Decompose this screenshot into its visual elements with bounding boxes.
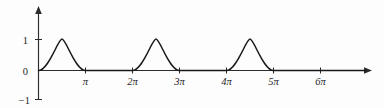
y-tick-label-1: 1 [23, 35, 28, 46]
data-series-rectified-sine [39, 39, 367, 71]
curve-arch-2 [133, 39, 180, 71]
x-tick-label-4pi: 4π [221, 76, 232, 87]
x-tick-label-5pi: 5π [268, 76, 279, 87]
x-tick-label-2pi: 2π [127, 76, 138, 87]
x-tick-label-6pi: 6π [315, 76, 326, 87]
chart-figure: π 2π 3π 4π 5π 6π 1 0 −1 [0, 0, 384, 108]
curve-arch-3 [227, 39, 274, 71]
y-axis [35, 6, 42, 100]
y-tick-label-0: 0 [23, 66, 28, 77]
curve-arch-1 [39, 39, 86, 71]
x-tick-label-3pi: 3π [173, 76, 185, 87]
arrow-up-icon [35, 6, 42, 14]
x-tick-labels: π 2π 3π 4π 5π 6π [83, 76, 327, 87]
y-tick-label-minus1: −1 [19, 95, 30, 106]
x-tick-label-pi: π [83, 76, 89, 87]
plot-canvas: π 2π 3π 4π 5π 6π 1 0 −1 [0, 0, 384, 108]
y-tick-labels: 1 0 −1 [19, 35, 30, 106]
